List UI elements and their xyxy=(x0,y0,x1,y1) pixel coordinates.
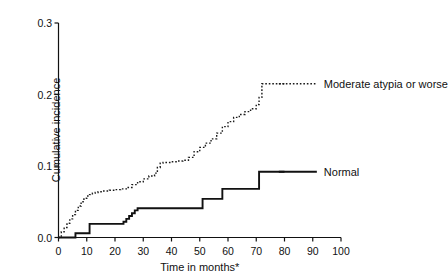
y-tick-label: 0.0 xyxy=(24,232,52,243)
y-axis-title: Cumulative incidence xyxy=(51,78,62,183)
x-tick-label: 70 xyxy=(250,246,262,257)
series-label-moderate-atypia-or-worse: Moderate atypia or worse xyxy=(324,78,448,89)
x-tick-label: 60 xyxy=(222,246,234,257)
x-axis-title: Time in months* xyxy=(160,262,239,273)
series-line-moderate-atypia-or-worse xyxy=(59,84,285,238)
x-tick-label: 20 xyxy=(109,246,121,257)
x-tick-label: 30 xyxy=(137,246,149,257)
y-tick-label: 0.1 xyxy=(24,161,52,172)
x-tick-label: 40 xyxy=(166,246,178,257)
x-tick-label: 80 xyxy=(279,246,291,257)
x-tick-marks xyxy=(59,238,342,242)
y-tick-label: 0.2 xyxy=(24,89,52,100)
x-tick-label: 0 xyxy=(56,246,62,257)
x-tick-label: 10 xyxy=(81,246,93,257)
y-tick-label: 0.3 xyxy=(24,18,52,29)
x-tick-label: 90 xyxy=(307,246,319,257)
series-line-normal xyxy=(59,172,285,238)
series-label-normal: Normal xyxy=(324,166,359,177)
y-axis-title-text: Cumulative incidence xyxy=(51,78,62,183)
x-tick-label: 100 xyxy=(332,246,350,257)
x-tick-label: 50 xyxy=(194,246,206,257)
